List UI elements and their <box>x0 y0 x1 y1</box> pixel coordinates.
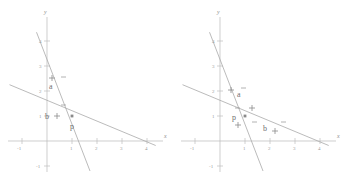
x-tick-label-2: 2 <box>95 146 98 151</box>
right-panel: -1 1 2 3 4 4 3 2 1 -1 x y p <box>173 0 346 185</box>
left-panel-minus-marks <box>61 77 66 105</box>
right-panel-points: p a b <box>228 87 278 134</box>
point-marker-p <box>244 115 247 118</box>
steep-line <box>210 32 264 171</box>
left-panel-ticks <box>22 41 147 166</box>
shallow-line <box>183 85 329 146</box>
point-label-a: a <box>237 90 241 99</box>
x-tick-label--1: -1 <box>190 146 195 151</box>
shallow-line <box>10 85 156 146</box>
left-panel-axis-names: x y <box>43 9 167 139</box>
left-panel-points: p a b <box>45 75 74 131</box>
left-panel-lines <box>10 32 156 171</box>
point-label-b: b <box>45 112 49 121</box>
right-panel-svg: -1 1 2 3 4 4 3 2 1 -1 x y p <box>173 0 346 185</box>
y-tick-label-1: 1 <box>212 114 215 119</box>
x-tick-label-2: 2 <box>268 146 271 151</box>
y-axis-label: y <box>216 9 220 15</box>
left-panel-axes <box>8 17 163 172</box>
right-panel-lines <box>183 32 329 171</box>
x-axis-label: x <box>336 133 340 139</box>
right-panel-axes <box>181 17 336 172</box>
x-tick-label-4: 4 <box>318 146 321 151</box>
left-panel: -1 1 2 3 4 4 3 2 1 -1 x y p <box>0 0 173 185</box>
x-tick-label-1: 1 <box>243 146 246 151</box>
x-tick-label-4: 4 <box>145 146 148 151</box>
point-label-p: p <box>232 113 236 122</box>
right-panel-ticks <box>195 41 320 166</box>
left-panel-tick-labels: -1 1 2 3 4 4 3 2 1 -1 <box>17 39 148 169</box>
point-marker-p <box>71 115 74 118</box>
y-tick-label--1: -1 <box>36 164 41 169</box>
y-tick-label-1: 1 <box>39 114 42 119</box>
y-tick-label-3: 3 <box>212 64 215 69</box>
right-panel-plus-marks <box>249 105 255 111</box>
point-label-p: p <box>70 122 74 131</box>
y-tick-label-2: 2 <box>39 89 42 94</box>
left-panel-svg: -1 1 2 3 4 4 3 2 1 -1 x y p <box>0 0 173 185</box>
x-tick-label-3: 3 <box>293 146 296 151</box>
two-panel-line-plot-figure: -1 1 2 3 4 4 3 2 1 -1 x y p <box>0 0 346 185</box>
x-axis-label: x <box>163 133 167 139</box>
y-axis-label: y <box>43 9 47 15</box>
x-tick-label-1: 1 <box>70 146 73 151</box>
y-tick-label-3: 3 <box>39 64 42 69</box>
x-tick-label-3: 3 <box>120 146 123 151</box>
point-label-b: b <box>263 124 267 133</box>
y-tick-label-2: 2 <box>212 89 215 94</box>
y-tick-label--1: -1 <box>209 164 214 169</box>
right-panel-tick-labels: -1 1 2 3 4 4 3 2 1 -1 <box>190 39 321 169</box>
point-label-a: a <box>49 82 53 91</box>
steep-line <box>37 32 91 171</box>
x-tick-label--1: -1 <box>17 146 22 151</box>
